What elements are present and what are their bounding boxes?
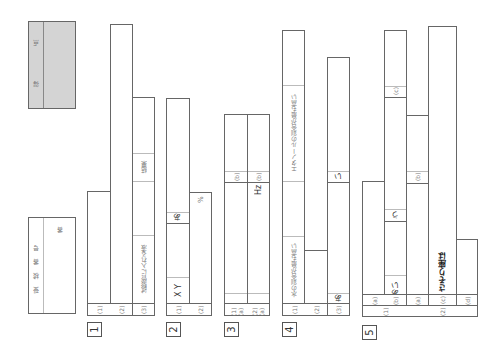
s5-q1b-u-label: う: [385, 209, 406, 221]
s3-q2a-label: (2)(a): [247, 304, 270, 316]
s4-q3-label: (3): [327, 304, 350, 316]
s5-q2c-prefix: さそり座は: [429, 249, 456, 295]
s1-label-row: (1) (2) (3): [87, 303, 155, 316]
s3-q1a-label: (1)(a): [225, 304, 248, 316]
s3-label-row: (1)(a) (2)(a): [224, 303, 270, 316]
section-2-number: 2: [166, 322, 181, 337]
s4-q1-ethanol-label: エタノールの割合が最も高い: [283, 85, 304, 181]
s5-group2-label: (2): [407, 306, 478, 317]
s4-q2-label: (2): [305, 304, 328, 316]
score-label-b: 点: [29, 36, 43, 50]
s3-q1b-label: (b): [225, 171, 247, 182]
s5-q1a-answer[interactable]: [362, 181, 385, 306]
score-box: 得 点: [28, 21, 76, 109]
s5-q2c-answer[interactable]: さそり座は: [428, 26, 457, 306]
s1-q1-label: (1): [88, 304, 111, 316]
s4-q1-water-label: 水の割合が最も高い: [283, 236, 304, 304]
s2-q1-xy-label: X Y: [167, 277, 189, 304]
s2-q2-label: (2): [189, 304, 212, 316]
s2-q2-answer[interactable]: %: [189, 192, 212, 316]
s1-q3-liquid-label: 試験管に入れる液: [133, 235, 154, 303]
s4-q3-i-label: い: [328, 171, 349, 182]
s2-label-row: (1) (2): [166, 303, 212, 316]
s1-q3-label: (3): [132, 304, 155, 316]
section-5-number: 5: [362, 325, 377, 340]
s4-q3-answer[interactable]: い あ: [327, 57, 350, 316]
s1-q2-answer[interactable]: [110, 24, 133, 316]
s1-q1-answer[interactable]: [87, 191, 111, 316]
s2-q1-label: (1): [167, 304, 190, 316]
section-4-number: 4: [282, 322, 297, 337]
section-3-number: 3: [224, 322, 239, 337]
s5-q1c-label: (c): [385, 86, 406, 97]
s4-q1-answer[interactable]: エタノールの割合が最も高い 水の割合が最も高い: [282, 30, 305, 316]
exam-number-label: 受 検 番 号: [29, 228, 43, 308]
s3-q2-answer[interactable]: (b) Hz: [247, 114, 270, 316]
s1-q3-result-label: 結果: [133, 153, 154, 181]
s4-q1-label: (1): [283, 304, 306, 316]
score-divider: [43, 22, 44, 108]
s5-group1-label: (1): [363, 306, 407, 317]
s1-q2-label: (2): [110, 304, 133, 316]
exam-number-suffix: 番: [53, 223, 67, 237]
s2-q1-a-label: あ: [167, 212, 189, 223]
exam-number-divider: [43, 218, 44, 313]
s3-q2-unit: Hz: [248, 183, 269, 197]
score-label-a: 得: [29, 77, 43, 91]
s5-q1b-answer[interactable]: (c) う あい: [384, 30, 407, 306]
s3-q2b-label: (b): [248, 171, 269, 182]
s1-q3-answer[interactable]: 結果 試験管に入れる液: [132, 97, 155, 316]
s5-group-row: (1) (2): [362, 305, 478, 317]
s3-q1-answer[interactable]: (b): [224, 114, 248, 316]
s2-q1-answer[interactable]: あ X Y: [166, 98, 190, 316]
exam-number-box[interactable]: 受 検 番 号 番: [28, 217, 76, 314]
s5-q2b-label: (b): [407, 171, 428, 183]
s2-q2-unit: %: [190, 194, 211, 206]
s4-label-row: (1) (2) (3): [282, 303, 350, 316]
section-1-number: 1: [87, 322, 102, 337]
s5-q2a-answer[interactable]: (b): [406, 115, 429, 306]
